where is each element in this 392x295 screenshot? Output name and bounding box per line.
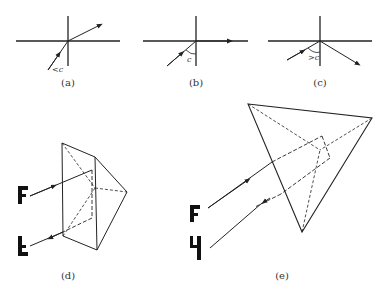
angle-label-a: <c [52,65,64,74]
f-glyph-out-icon [18,236,28,256]
angle-label-b: c [187,55,192,64]
optics-diagram: <c (a) c (b) >c (c) [0,0,392,295]
panel-label-a: (a) [61,77,75,88]
panel-a: <c (a) [16,16,120,88]
f-glyph-out-icon [190,236,201,260]
panel-c: >c (c) [268,16,372,88]
f-glyph-in-icon [18,186,28,204]
panel-label-b: (b) [189,77,203,88]
angle-label-c: >c [308,53,320,62]
panel-d: (d) [18,143,127,281]
panel-label-d: (d) [61,270,75,281]
panel-label-e: (e) [275,270,289,281]
panel-b: c (b) [143,16,248,88]
panel-e: (e) [190,104,372,281]
panel-label-c: (c) [313,77,327,88]
f-glyph-in-icon [190,205,200,222]
